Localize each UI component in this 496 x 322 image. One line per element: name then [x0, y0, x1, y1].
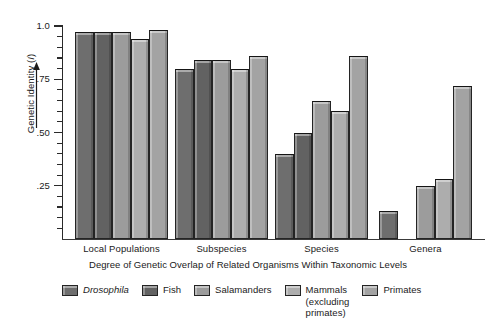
bar: [194, 60, 213, 239]
legend-label: Fish: [163, 284, 181, 296]
y-axis-title-symbol: I: [25, 57, 36, 60]
bar: [75, 32, 94, 239]
legend-swatch: [285, 285, 301, 296]
y-tick-label: .50: [10, 127, 50, 138]
bar: [294, 133, 313, 240]
legend-label: Primates: [383, 284, 421, 296]
bar: [131, 39, 150, 239]
bar: [275, 154, 294, 239]
bar: [175, 69, 194, 239]
legend-label: Drosophila: [83, 284, 129, 296]
bar: [416, 186, 435, 239]
legend-swatch: [362, 285, 378, 296]
bar: [453, 86, 472, 239]
y-tick-label: .25: [10, 180, 50, 191]
bar: [249, 56, 268, 239]
legend-label: Salamanders: [215, 284, 272, 296]
chart-caption: Degree of Genetic Overlap of Related Org…: [0, 259, 496, 270]
bar: [149, 30, 168, 239]
y-axis-title-close: ): [25, 54, 36, 57]
bar: [349, 56, 368, 239]
y-axis-arrow-icon: [32, 62, 41, 128]
y-tick-label: 1.0: [10, 20, 50, 31]
y-tick-label: .75: [10, 73, 50, 84]
group-label-genera: Genera: [366, 243, 486, 254]
legend-item: Primates: [362, 284, 421, 296]
legend-swatch: [142, 285, 158, 296]
legend-label: Mammals (excluding primates): [306, 284, 350, 319]
legend-item: Mammals (excluding primates): [285, 284, 350, 319]
legend-item: Drosophila: [62, 284, 129, 296]
legend-swatch: [194, 285, 210, 296]
bar: [112, 32, 131, 239]
bar: [312, 101, 331, 239]
plot-area: [62, 26, 485, 239]
group-label-species: Species: [262, 243, 382, 254]
bar: [94, 32, 113, 239]
bar: [379, 211, 398, 239]
legend-item: Fish: [142, 284, 181, 296]
bar: [212, 60, 231, 239]
bar: [231, 69, 250, 239]
chart-legend: DrosophilaFishSalamandersMammals (exclud…: [62, 284, 482, 319]
legend-item: Salamanders: [194, 284, 272, 296]
legend-swatch: [62, 285, 78, 296]
bar: [331, 111, 350, 239]
bar: [435, 179, 454, 239]
genetic-identity-bar-chart: Genetic Identity (I) 1.0.75.50.25 Local …: [0, 0, 496, 322]
